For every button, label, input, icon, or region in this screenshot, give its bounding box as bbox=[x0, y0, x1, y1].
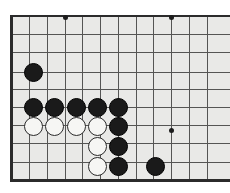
grid-line-horizontal-1 bbox=[11, 34, 230, 35]
grid-line-vertical-4 bbox=[82, 16, 83, 180]
stone-black-row-2[interactable] bbox=[45, 98, 64, 117]
stone-black-row-5[interactable] bbox=[109, 98, 128, 117]
grid-line-horizontal-4 bbox=[11, 89, 230, 90]
stone-white-row-1[interactable] bbox=[24, 117, 43, 136]
stone-black-col-3[interactable] bbox=[109, 157, 128, 176]
stone-black-lower-right[interactable] bbox=[146, 157, 165, 176]
stone-black-row-1[interactable] bbox=[24, 98, 43, 117]
stone-white-lower-1[interactable] bbox=[88, 137, 107, 156]
left-edge bbox=[10, 15, 13, 182]
grid-line-vertical-7 bbox=[136, 16, 137, 180]
stone-black-col-1[interactable] bbox=[109, 117, 128, 136]
star-point-top-right bbox=[169, 15, 174, 20]
grid-line-horizontal-3 bbox=[11, 72, 230, 73]
stone-black-upper-left[interactable] bbox=[24, 63, 43, 82]
stone-white-row-4[interactable] bbox=[88, 117, 107, 136]
grid-line-vertical-3 bbox=[65, 16, 66, 180]
star-point-top-left bbox=[63, 15, 68, 20]
top-edge bbox=[10, 15, 230, 17]
stone-black-col-2[interactable] bbox=[109, 137, 128, 156]
stone-white-row-3[interactable] bbox=[67, 117, 86, 136]
grid-line-vertical-10 bbox=[189, 16, 190, 180]
bottom-edge bbox=[10, 179, 230, 182]
grid-line-vertical-2 bbox=[47, 16, 48, 180]
star-point-center-right bbox=[169, 128, 174, 133]
stone-white-lower-2[interactable] bbox=[88, 157, 107, 176]
stone-white-row-2[interactable] bbox=[45, 117, 64, 136]
grid-line-vertical-8 bbox=[153, 16, 154, 180]
stone-black-row-4[interactable] bbox=[88, 98, 107, 117]
stone-black-row-3[interactable] bbox=[67, 98, 86, 117]
grid-line-vertical-11 bbox=[207, 16, 208, 180]
grid-line-horizontal-2 bbox=[11, 52, 230, 53]
go-board-container[interactable] bbox=[0, 0, 230, 193]
grid-line-vertical-9 bbox=[171, 16, 172, 180]
